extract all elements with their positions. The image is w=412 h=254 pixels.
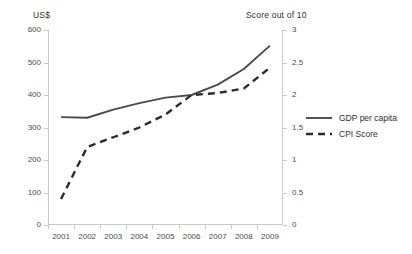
x-tick-mark — [48, 225, 49, 229]
x-tick-mark — [257, 225, 258, 229]
right-tick-label: 0 — [292, 221, 318, 229]
right-axis-title: Score out of 10 — [246, 10, 307, 20]
x-tick-mark — [74, 225, 75, 229]
legend-item[interactable]: CPI Score — [306, 126, 397, 142]
series-line-cpi-score — [61, 68, 270, 199]
left-tick-label: 100 — [15, 189, 41, 197]
right-tick-mark — [283, 30, 287, 31]
legend-swatch-dashed-icon — [306, 129, 332, 139]
x-tick-label: 2009 — [255, 233, 285, 241]
chart-container: US$ Score out of 10 0100200300400500600 … — [0, 0, 412, 254]
series-lines — [48, 30, 283, 225]
chart-legend: GDP per capitaCPI Score — [306, 110, 397, 142]
left-tick-label: 300 — [15, 124, 41, 132]
right-tick-label: 2 — [292, 91, 318, 99]
right-tick-label: 2.5 — [292, 59, 318, 67]
left-tick-label: 400 — [15, 91, 41, 99]
plot-area — [48, 30, 283, 225]
series-line-gdp-per-capita — [61, 46, 270, 118]
right-tick-label: 0.5 — [292, 189, 318, 197]
x-tick-mark — [179, 225, 180, 229]
x-tick-mark — [205, 225, 206, 229]
left-axis-title: US$ — [33, 10, 50, 20]
right-tick-label: 3 — [292, 26, 318, 34]
x-tick-mark — [231, 225, 232, 229]
right-tick-mark — [283, 128, 287, 129]
legend-item[interactable]: GDP per capita — [306, 110, 397, 126]
right-tick-mark — [283, 160, 287, 161]
x-tick-mark — [126, 225, 127, 229]
x-tick-mark — [100, 225, 101, 229]
left-tick-label: 600 — [15, 26, 41, 34]
legend-swatch-solid-icon — [306, 113, 332, 123]
legend-label: CPI Score — [339, 129, 378, 139]
legend-label: GDP per capita — [339, 113, 397, 123]
right-tick-mark — [283, 63, 287, 64]
left-tick-label: 200 — [15, 156, 41, 164]
right-tick-mark — [283, 193, 287, 194]
right-tick-mark — [283, 95, 287, 96]
right-tick-label: 1 — [292, 156, 318, 164]
left-tick-label: 0 — [15, 221, 41, 229]
x-tick-mark — [152, 225, 153, 229]
right-tick-mark — [283, 225, 287, 226]
left-tick-label: 500 — [15, 59, 41, 67]
